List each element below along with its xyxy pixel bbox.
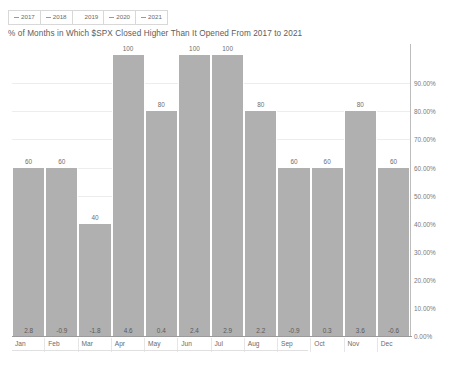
bar-column[interactable]: 1002.9 bbox=[211, 44, 244, 336]
bar-value-label: 80 bbox=[245, 101, 276, 108]
bar[interactable]: 600.3 bbox=[311, 168, 344, 336]
y-axis-tick-label: 10.00% bbox=[414, 304, 436, 311]
bar-inner-label: 2.9 bbox=[212, 327, 243, 334]
bar-inner-label: 2.2 bbox=[245, 327, 276, 334]
y-axis-tick-label: 40.00% bbox=[414, 220, 436, 227]
legend-label: 2020 bbox=[116, 14, 130, 20]
bar[interactable]: 60-0.6 bbox=[377, 168, 410, 336]
y-axis-tick-label: 60.00% bbox=[414, 164, 436, 171]
x-axis-tick-label: Dec bbox=[378, 338, 410, 352]
bar-inner-label: -0.6 bbox=[378, 327, 409, 334]
legend-item-2018[interactable]: 2018 bbox=[41, 11, 73, 24]
bar-column[interactable]: 1002.4 bbox=[178, 44, 211, 336]
legend-dash-icon bbox=[109, 17, 114, 18]
bar-value-label: 80 bbox=[345, 101, 376, 108]
bar-inner-label: 2.4 bbox=[179, 327, 210, 334]
legend-label: 2017 bbox=[21, 14, 35, 20]
bar[interactable]: 802.2 bbox=[244, 111, 277, 336]
chart-title: % of Months in Which $SPX Closed Higher … bbox=[8, 29, 302, 38]
bar-inner-label: -0.9 bbox=[278, 327, 309, 334]
bar-value-label: 100 bbox=[212, 45, 243, 52]
bar-column[interactable]: 60-0.9 bbox=[277, 44, 310, 336]
bar[interactable]: 60-0.9 bbox=[277, 168, 310, 336]
chart-root: 2017 2018 2019 2020 2021 % of Months in … bbox=[0, 0, 466, 372]
bar-column[interactable]: 802.2 bbox=[244, 44, 277, 336]
bar-series: 602.860-0.940-1.81004.6800.41002.41002.9… bbox=[12, 44, 410, 336]
y-axis-tick-label: 50.00% bbox=[414, 192, 436, 199]
bar-inner-label: -0.9 bbox=[46, 327, 77, 334]
bar-column[interactable]: 800.4 bbox=[145, 44, 178, 336]
bar-value-label: 100 bbox=[113, 45, 144, 52]
bar-value-label: 80 bbox=[146, 101, 177, 108]
chart-legend[interactable]: 2017 2018 2019 2020 2021 bbox=[8, 10, 168, 25]
y-axis-tick-label: 80.00% bbox=[414, 108, 436, 115]
bar[interactable]: 1002.4 bbox=[178, 55, 211, 336]
bar-inner-label: 3.6 bbox=[345, 327, 376, 334]
bar-inner-label: 4.6 bbox=[113, 327, 144, 334]
bar[interactable]: 40-1.8 bbox=[78, 224, 111, 336]
bar[interactable]: 1004.6 bbox=[112, 55, 145, 336]
legend-label: 2018 bbox=[53, 14, 67, 20]
bar-value-label: 100 bbox=[179, 45, 210, 52]
bar-column[interactable]: 40-1.8 bbox=[78, 44, 111, 336]
x-axis-line bbox=[12, 336, 412, 337]
bar-value-label: 60 bbox=[13, 158, 44, 165]
bar[interactable]: 803.6 bbox=[344, 111, 377, 336]
legend-dash-icon bbox=[14, 17, 19, 18]
legend-dash-icon bbox=[141, 17, 146, 18]
bar[interactable]: 60-0.9 bbox=[45, 168, 78, 336]
bar[interactable]: 1002.9 bbox=[211, 55, 244, 336]
bar-column[interactable]: 1004.6 bbox=[112, 44, 145, 336]
bar-column[interactable]: 600.3 bbox=[311, 44, 344, 336]
legend-item-2019[interactable]: 2019 bbox=[73, 11, 105, 24]
bar[interactable]: 602.8 bbox=[12, 168, 45, 336]
bar-inner-label: 0.3 bbox=[312, 327, 343, 334]
y-axis-labels: 0.00%10.00%20.00%30.00%40.00%50.00%60.00… bbox=[414, 44, 464, 336]
legend-dash-icon bbox=[46, 17, 51, 18]
bar[interactable]: 800.4 bbox=[145, 111, 178, 336]
y-axis-tick-label: 70.00% bbox=[414, 136, 436, 143]
bar-column[interactable]: 60-0.6 bbox=[377, 44, 410, 336]
bar-inner-label: 0.4 bbox=[146, 327, 177, 334]
bar-value-label: 60 bbox=[312, 158, 343, 165]
legend-item-2020[interactable]: 2020 bbox=[104, 11, 136, 24]
bar-column[interactable]: 60-0.9 bbox=[45, 44, 78, 336]
y-axis-tick-label: 90.00% bbox=[414, 80, 436, 87]
bar-inner-label: 2.8 bbox=[13, 327, 44, 334]
y-axis-tick-label: 30.00% bbox=[414, 248, 436, 255]
x-axis-underline bbox=[12, 350, 308, 351]
y-axis-tick-label: 20.00% bbox=[414, 276, 436, 283]
legend-label: 2021 bbox=[148, 14, 162, 20]
bar-column[interactable]: 803.6 bbox=[344, 44, 377, 336]
bar-value-label: 60 bbox=[378, 158, 409, 165]
y-axis-tick-label: 0.00% bbox=[414, 333, 432, 340]
bar-value-label: 60 bbox=[46, 158, 77, 165]
bar-column[interactable]: 602.8 bbox=[12, 44, 45, 336]
legend-label: 2019 bbox=[85, 14, 99, 20]
legend-item-2017[interactable]: 2017 bbox=[9, 11, 41, 24]
y-axis-line bbox=[410, 44, 411, 336]
bar-value-label: 40 bbox=[79, 214, 110, 221]
x-axis-tick-label: Oct bbox=[311, 338, 344, 352]
bar-value-label: 60 bbox=[278, 158, 309, 165]
x-axis-tick-label: Nov bbox=[345, 338, 378, 352]
bar-inner-label: -1.8 bbox=[79, 327, 110, 334]
legend-item-2021[interactable]: 2021 bbox=[136, 11, 167, 24]
plot-area: 602.860-0.940-1.81004.6800.41002.41002.9… bbox=[12, 44, 410, 336]
